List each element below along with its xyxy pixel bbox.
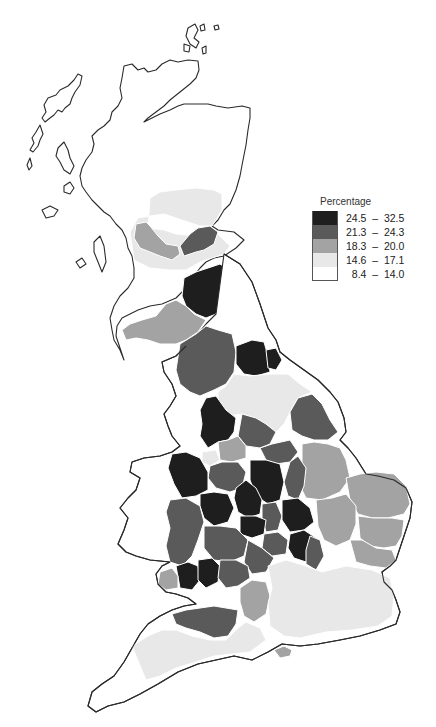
legend-swatch — [312, 225, 338, 239]
legend-row: 18.3 – 20.0 — [312, 239, 422, 253]
legend-range-label: 24.5 – 32.5 — [346, 212, 404, 224]
choropleth-map — [0, 0, 436, 727]
legend-row: 14.6 – 17.1 — [312, 253, 422, 267]
legend-range-label: 8.4 – 14.0 — [346, 268, 404, 280]
map-legend: Percentage 24.5 – 32.5 21.3 – 24.3 18.3 … — [312, 196, 422, 281]
legend-swatch — [312, 239, 338, 253]
western-isles — [27, 74, 82, 170]
legend-swatch — [312, 253, 338, 267]
northern-isles — [184, 24, 219, 54]
legend-range-label: 18.3 – 20.0 — [346, 240, 404, 252]
legend-row: 8.4 – 14.0 — [312, 267, 422, 281]
legend-range-label: 21.3 – 24.3 — [346, 226, 404, 238]
legend-row: 21.3 – 24.3 — [312, 225, 422, 239]
legend-swatch — [312, 267, 338, 281]
legend-range-label: 14.6 – 17.1 — [346, 254, 404, 266]
legend-swatch — [312, 211, 338, 225]
legend-row: 24.5 – 32.5 — [312, 211, 422, 225]
legend-title: Percentage — [320, 196, 422, 207]
